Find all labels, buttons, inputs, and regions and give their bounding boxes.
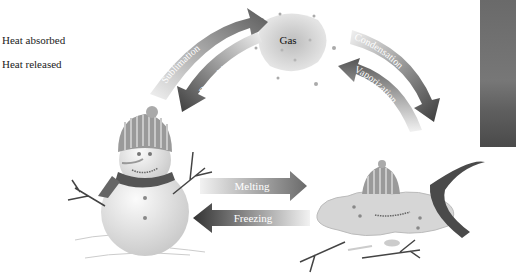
phase-change-diagram: Gas Sublimation Deposition Condensation … [0, 0, 516, 275]
vaporization-label: Vaporization [353, 63, 400, 105]
melting-label: Melting [235, 180, 270, 192]
deposition-arrow: Deposition [177, 32, 262, 112]
snowman-illustration [68, 106, 212, 258]
freezing-label: Freezing [234, 212, 273, 224]
freezing-arrow: Freezing [193, 203, 310, 233]
svg-text:Vaporization: Vaporization [353, 63, 400, 105]
melted-snowman-puddle [300, 160, 485, 272]
condensation-label: Condensation [353, 31, 406, 71]
gas-label: Gas [279, 34, 296, 46]
svg-text:Condensation: Condensation [353, 31, 406, 71]
gas-cloud [255, 13, 337, 87]
melting-arrow: Melting [200, 171, 307, 201]
